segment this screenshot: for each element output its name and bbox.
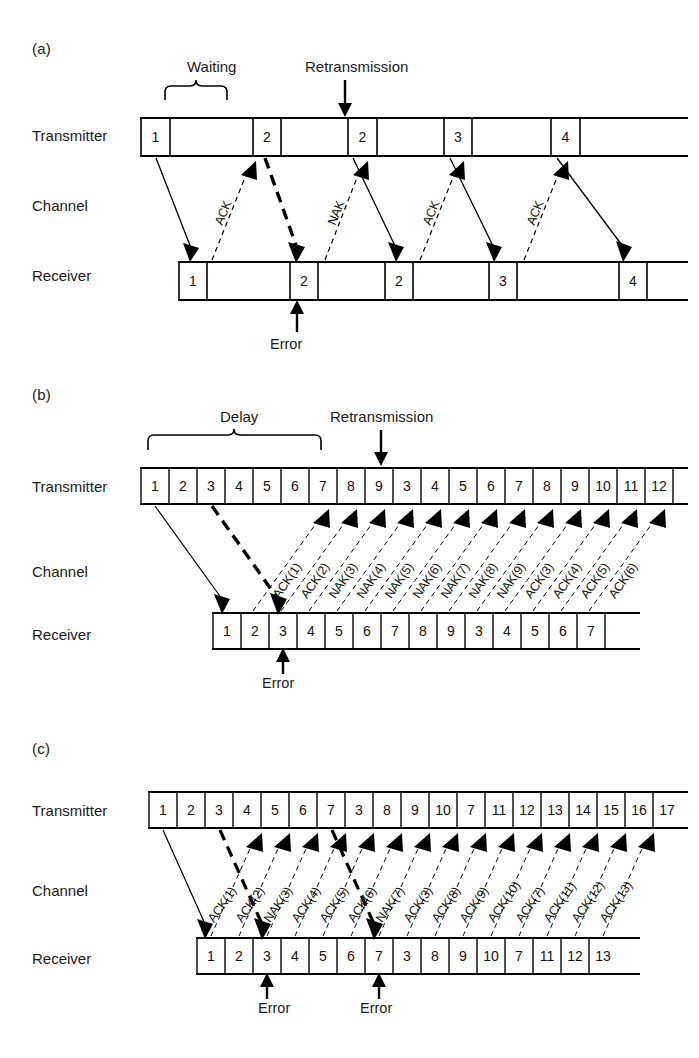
panel-c-rx-frame: 8 (421, 948, 449, 964)
panel-b-tx-frame: 1 (141, 478, 169, 494)
panel-b-graphics (0, 378, 699, 708)
panel-b-tx-frame: 9 (561, 478, 589, 494)
panel-c-tx-frame: 13 (541, 802, 569, 818)
delay-brace-icon (148, 429, 321, 450)
panel-b-rx-frame: 6 (549, 623, 577, 639)
panel-b-tx-frame: 4 (421, 478, 449, 494)
panel-c-error-arrow-icon (260, 973, 274, 999)
panel-a-graphics (0, 0, 699, 370)
panel-b-tx-frame: 3 (197, 478, 225, 494)
panel-a: (a) Transmitter Channel Receiver Waiting… (0, 0, 699, 370)
panel-b-tx-frame: 11 (617, 478, 645, 494)
panel-b-rx-frame: 9 (437, 623, 465, 639)
panel-c-rx-frame: 2 (225, 948, 253, 964)
panel-b-tx-frame: 4 (225, 478, 253, 494)
panel-c-tx-frame: 1 (149, 802, 177, 818)
panel-c-tx-frame: 3 (345, 802, 373, 818)
panel-c-rx-frame: 1 (197, 948, 225, 964)
panel-b-rx-frame: 6 (353, 623, 381, 639)
retransmission-arrow-icon (338, 80, 352, 117)
panel-b-tx-frame: 9 (365, 478, 393, 494)
panel-b-rx-frame: 8 (409, 623, 437, 639)
panel-c-rx-frame: 12 (561, 948, 589, 964)
panel-b-rx-frame: 5 (325, 623, 353, 639)
panel-c-tx-frame: 9 (401, 802, 429, 818)
panel-b-rx-frame: 7 (381, 623, 409, 639)
waiting-brace-icon (165, 80, 227, 100)
panel-c-rx-frame: 7 (505, 948, 533, 964)
panel-b-rx-frame: 3 (269, 623, 297, 639)
retransmission-arrow-icon (374, 430, 388, 466)
panel-a-tx-frame: 4 (551, 129, 580, 145)
panel-a-rx-frame: 1 (179, 273, 207, 289)
panel-b-rx-frame: 4 (493, 623, 521, 639)
panel-a-tx-frame: 1 (141, 129, 170, 145)
panel-b-tx-frame: 8 (337, 478, 365, 494)
panel-a-error-arrow-icon (290, 300, 304, 332)
panel-c-rx-frame: 11 (533, 948, 561, 964)
panel-c: (c) Transmitter Channel Receiver Error E… (0, 712, 699, 1058)
panel-c-rx-frame: 3 (393, 948, 421, 964)
panel-b-rx-frame: 7 (577, 623, 605, 639)
panel-b-tx-frame: 6 (477, 478, 505, 494)
panel-c-error-arrow-icon (372, 973, 386, 999)
panel-a-rx-frame: 2 (385, 273, 413, 289)
panel-b-tx-frame: 8 (533, 478, 561, 494)
panel-a-rx-frame: 3 (489, 273, 517, 289)
panel-b-rx-frame: 2 (241, 623, 269, 639)
panel-b-tx-frame: 5 (253, 478, 281, 494)
panel-b-rx-frame: 1 (213, 623, 241, 639)
panel-b-error-arrow-icon (276, 648, 290, 674)
panel-c-rx-frame: 5 (309, 948, 337, 964)
panel-c-tx-frame: 8 (373, 802, 401, 818)
panel-c-tx-frame: 16 (625, 802, 653, 818)
panel-a-transmitter-timeline (140, 118, 688, 156)
panel-b-tx-frame: 5 (449, 478, 477, 494)
panel-a-error-frame-arrow (265, 158, 305, 263)
panel-a-tx-frame: 2 (253, 129, 281, 145)
panel-a-rx-frame: 2 (290, 273, 318, 289)
panel-b-tx-frame: 2 (169, 478, 197, 494)
panel-c-tx-frame: 12 (513, 802, 541, 818)
panel-c-tx-frame: 6 (289, 802, 317, 818)
panel-c-tx-frame: 3 (205, 802, 233, 818)
panel-a-rx-frame: 4 (619, 273, 647, 289)
panel-c-tx-frame: 11 (485, 802, 513, 818)
panel-b-rx-frame: 5 (521, 623, 549, 639)
panel-c-tx-frame: 4 (233, 802, 261, 818)
panel-c-rx-frame: 9 (449, 948, 477, 964)
panel-a-tx-frame: 3 (444, 129, 472, 145)
panel-b-data-arrow (155, 506, 230, 614)
panel-a-receiver-timeline (178, 262, 688, 300)
panel-c-data-arrow (163, 830, 213, 939)
panel-c-tx-frame: 2 (177, 802, 205, 818)
panel-c-rx-frame: 13 (589, 948, 617, 964)
panel-b-tx-frame: 3 (393, 478, 421, 494)
panel-c-rx-frame: 7 (365, 948, 393, 964)
panel-c-tx-frame: 5 (261, 802, 289, 818)
panel-c-tx-frame: 15 (597, 802, 625, 818)
panel-c-rx-frame: 6 (337, 948, 365, 964)
panel-b-rx-frame: 3 (465, 623, 493, 639)
arq-protocol-figure: (a) Transmitter Channel Receiver Waiting… (0, 0, 699, 1058)
panel-c-rx-frame: 4 (281, 948, 309, 964)
panel-c-tx-frame: 10 (429, 802, 457, 818)
panel-b: (b) Transmitter Channel Receiver Delay R… (0, 378, 699, 708)
panel-c-rx-frame: 10 (477, 948, 505, 964)
panel-b-tx-frame: 12 (645, 478, 673, 494)
panel-c-tx-frame: 7 (317, 802, 345, 818)
panel-c-tx-frame: 7 (457, 802, 485, 818)
panel-b-tx-frame: 10 (589, 478, 617, 494)
panel-c-ack-arrows (211, 833, 655, 936)
panel-b-tx-frame: 7 (309, 478, 337, 494)
panel-c-tx-frame: 17 (653, 802, 681, 818)
panel-a-tx-frame: 2 (348, 129, 377, 145)
panel-b-tx-frame: 7 (505, 478, 533, 494)
panel-c-rx-frame: 3 (253, 948, 281, 964)
panel-b-tx-frame: 6 (281, 478, 309, 494)
panel-b-rx-frame: 4 (297, 623, 325, 639)
panel-c-tx-frame: 14 (569, 802, 597, 818)
